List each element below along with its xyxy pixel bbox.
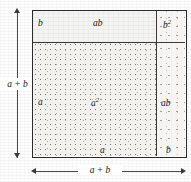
label-b-bottom: b [166,146,171,156]
label-ab-top: ab [93,19,103,29]
label-a-squared-exponent: 2 [96,96,99,103]
vertical-dimension-label: a + b [0,78,35,90]
horizontal-dimension-line-left [34,171,78,172]
vertical-divider [156,11,157,156]
arrow-down-icon [14,153,20,158]
label-a-bottom: a [100,146,105,156]
arrow-right-icon [181,168,186,174]
label-b-squared: b2 [163,19,171,31]
arrow-left-icon [31,168,36,174]
outer-square-frame [32,10,187,158]
arrow-up-icon [14,8,20,13]
horizontal-dimension-label: a + b [78,165,122,175]
geometric-identity-figure: a + b b ab b2 a a2 ab a b a + b [0,0,191,182]
horizontal-divider [33,42,185,43]
horizontal-dimension-line-right [120,171,182,172]
label-b-top-left: b [38,19,43,29]
label-a-squared: a2 [91,97,99,109]
label-ab-right: ab [161,99,171,109]
label-a-left: a [38,98,43,108]
label-b-squared-exponent: 2 [168,18,171,25]
